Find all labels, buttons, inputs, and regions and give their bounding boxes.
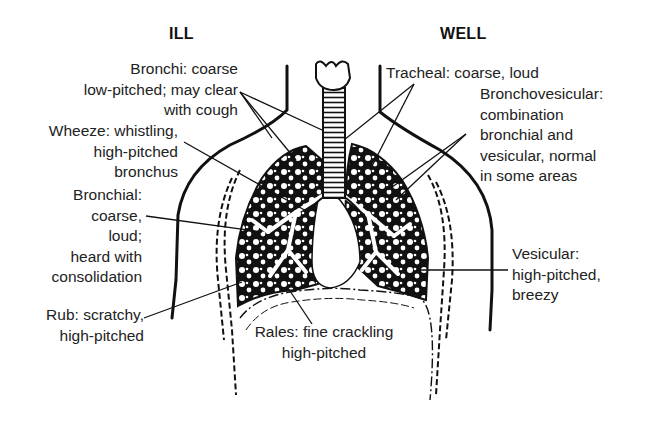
label-rales: Rales: fine crackling high-pitched [240,322,408,363]
larynx [316,61,350,90]
heading-ill: ILL [169,25,194,43]
heading-well: WELL [440,25,487,43]
label-bronchovesicular: Bronchovesicular: combination bronchial … [480,84,603,187]
label-bronchi: Bronchi: coarse low-pitched; may clear w… [84,59,238,121]
label-bronchial: Bronchial: coarse, loud; heard with cons… [52,185,142,288]
breath-sounds-diagram: ILL WELL Bronchi: coarse low-pitched; ma… [0,0,645,434]
trachea [323,88,345,198]
label-rub: Rub: scratchy, high-pitched [46,305,144,346]
right-lung [346,144,428,300]
label-vesicular: Vesicular: high-pitched, breezy [512,244,601,306]
label-tracheal: Tracheal: coarse, loud [386,63,539,84]
label-wheeze: Wheeze: whistling, high-pitched bronchus [49,121,178,183]
